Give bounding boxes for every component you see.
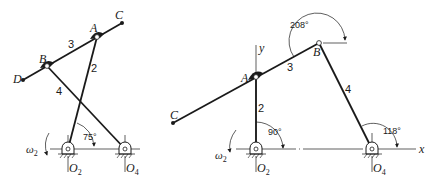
- label-a: A: [240, 71, 249, 85]
- left-mechanism: A B C D 3 2 4 75° ω2 O2 O4: [12, 8, 140, 177]
- omega-arrow-right: [230, 130, 236, 152]
- label-link-4: 4: [345, 83, 351, 95]
- omega-arrow-left: [45, 133, 49, 155]
- linkage-diagram: A B C D 3 2 4 75° ω2 O2 O4: [0, 0, 437, 186]
- label-x-axis: x: [418, 142, 425, 156]
- joint-a: [95, 35, 100, 40]
- label-o4: O4: [126, 161, 139, 177]
- label-o2: O2: [69, 161, 82, 177]
- link-4: [319, 43, 372, 149]
- label-angle-90: 90°: [268, 127, 282, 137]
- right-mechanism: A B C y x 3 2 4 90° 118° 208° ω2 O2 O4: [170, 13, 425, 177]
- label-link-3: 3: [68, 38, 74, 50]
- label-angle-208: 208°: [290, 20, 309, 30]
- label-c: C: [115, 8, 124, 22]
- label-link-2: 2: [91, 62, 97, 74]
- joint-a: [254, 75, 259, 80]
- label-o2: O2: [257, 161, 270, 177]
- label-o4: O4: [373, 161, 386, 177]
- label-a: A: [89, 21, 98, 35]
- label-omega: ω2: [26, 143, 38, 158]
- label-link-2: 2: [258, 102, 264, 114]
- label-angle-75: 75°: [83, 132, 97, 142]
- label-d: D: [12, 72, 22, 86]
- label-omega: ω2: [215, 149, 227, 164]
- label-c: C: [170, 108, 179, 122]
- label-b: B: [313, 45, 321, 59]
- label-angle-118: 118°: [383, 126, 401, 136]
- label-link-3: 3: [287, 61, 293, 73]
- label-b: B: [39, 52, 47, 66]
- label-y-axis: y: [258, 41, 265, 55]
- link-3: [23, 23, 122, 80]
- label-link-4: 4: [56, 85, 62, 97]
